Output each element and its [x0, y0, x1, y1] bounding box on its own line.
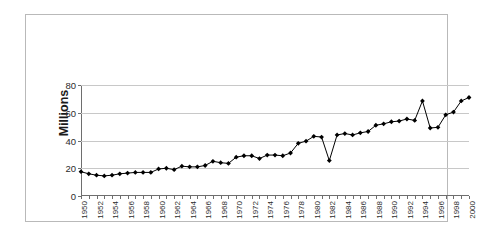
data-point-1991: [397, 119, 402, 124]
x-tick-mark: [275, 196, 276, 199]
x-tick-label-1992: 1992: [405, 201, 414, 219]
data-point-1956: [125, 171, 130, 176]
x-tick-mark: [135, 196, 136, 199]
data-point-1980: [311, 134, 316, 139]
data-point-1973: [257, 156, 262, 161]
x-tick-mark: [221, 196, 222, 199]
x-tick-mark: [205, 196, 206, 199]
x-tick-mark: [376, 196, 377, 199]
data-point-1972: [249, 153, 254, 158]
data-point-1983: [335, 133, 340, 138]
data-point-1950: [79, 169, 84, 174]
chart-frame: Millions 0204060801950195219541956195819…: [25, 14, 448, 222]
x-tick-mark: [182, 196, 183, 199]
x-tick-mark: [329, 196, 330, 199]
x-tick-mark: [190, 196, 191, 199]
y-tick-label-80: 80: [65, 80, 76, 91]
x-tick-mark: [97, 196, 98, 199]
x-tick-mark: [259, 196, 260, 199]
x-tick-label-1984: 1984: [343, 201, 352, 219]
x-tick-mark: [337, 196, 338, 199]
data-point-1975: [273, 153, 278, 158]
x-tick-label-1972: 1972: [250, 201, 259, 219]
data-point-1989: [381, 121, 386, 126]
x-tick-label-1980: 1980: [312, 201, 321, 219]
x-tick-mark: [174, 196, 175, 199]
x-tick-mark: [159, 196, 160, 199]
x-tick-label-1952: 1952: [95, 201, 104, 219]
data-point-1965: [195, 164, 200, 169]
x-tick-label-1978: 1978: [297, 201, 306, 219]
x-tick-mark: [322, 196, 323, 199]
data-point-2000: [467, 95, 472, 100]
x-tick-label-1990: 1990: [390, 201, 399, 219]
data-point-1986: [358, 130, 363, 135]
data-point-1971: [242, 153, 247, 158]
data-point-1957: [133, 170, 138, 175]
x-tick-mark: [252, 196, 253, 199]
x-tick-mark: [314, 196, 315, 199]
data-point-1952: [94, 173, 99, 178]
data-point-1996: [436, 125, 441, 130]
x-tick-mark: [298, 196, 299, 199]
x-tick-mark: [384, 196, 385, 199]
data-point-1990: [389, 119, 394, 124]
y-tick-label-0: 0: [71, 191, 76, 202]
x-tick-mark: [283, 196, 284, 199]
x-tick-label-1958: 1958: [142, 201, 151, 219]
plot-area: 0204060801950195219541956195819601962196…: [81, 85, 469, 196]
x-tick-label-1988: 1988: [374, 201, 383, 219]
data-point-1961: [164, 166, 169, 171]
x-tick-mark: [267, 196, 268, 199]
x-tick-mark: [399, 196, 400, 199]
data-point-1962: [172, 167, 177, 172]
x-tick-label-1968: 1968: [219, 201, 228, 219]
x-tick-label-1966: 1966: [204, 201, 213, 219]
x-tick-mark: [306, 196, 307, 199]
data-point-1964: [187, 164, 192, 169]
x-tick-mark: [368, 196, 369, 199]
x-tick-label-1956: 1956: [126, 201, 135, 219]
x-tick-label-1950: 1950: [80, 201, 89, 219]
data-point-1955: [117, 171, 122, 176]
data-point-1994: [420, 99, 425, 104]
x-tick-label-1976: 1976: [281, 201, 290, 219]
x-tick-mark: [120, 196, 121, 199]
data-point-1967: [211, 159, 216, 164]
data-point-1997: [443, 112, 448, 117]
x-tick-mark: [104, 196, 105, 199]
x-tick-mark: [461, 196, 462, 199]
x-tick-label-1954: 1954: [111, 201, 120, 219]
x-tick-label-1960: 1960: [157, 201, 166, 219]
x-tick-mark: [353, 196, 354, 199]
data-point-1985: [350, 133, 355, 138]
data-point-1951: [86, 171, 91, 176]
x-tick-mark: [407, 196, 408, 199]
x-tick-mark: [213, 196, 214, 199]
x-tick-label-1974: 1974: [266, 201, 275, 219]
data-point-1981: [319, 135, 324, 140]
x-tick-mark: [446, 196, 447, 199]
x-tick-label-1962: 1962: [173, 201, 182, 219]
x-tick-mark: [236, 196, 237, 199]
y-tick-label-20: 20: [65, 163, 76, 174]
data-point-1984: [342, 131, 347, 136]
data-point-1968: [218, 160, 223, 165]
x-tick-mark: [81, 196, 82, 199]
data-point-1966: [203, 163, 208, 168]
x-tick-mark: [228, 196, 229, 199]
data-point-1982: [327, 158, 332, 163]
series-line: [81, 85, 469, 196]
x-tick-mark: [469, 196, 470, 199]
x-tick-label-1970: 1970: [235, 201, 244, 219]
data-point-1974: [265, 153, 270, 158]
y-tick-label-60: 60: [65, 107, 76, 118]
data-point-1954: [110, 173, 115, 178]
x-tick-mark: [166, 196, 167, 199]
x-tick-label-1994: 1994: [421, 201, 430, 219]
data-point-1958: [141, 170, 146, 175]
data-point-1995: [428, 126, 433, 131]
y-tick-label-40: 40: [65, 135, 76, 146]
x-tick-label-2000: 2000: [468, 201, 477, 219]
